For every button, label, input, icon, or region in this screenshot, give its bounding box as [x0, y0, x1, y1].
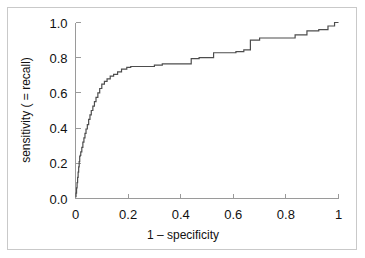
- y-tick-label: 0.4: [49, 121, 67, 136]
- x-axis-title: 1 – specificity: [147, 228, 219, 242]
- axis-lines: [76, 23, 339, 199]
- y-tick-label: 0.0: [49, 192, 67, 207]
- x-tick-label: 0.2: [119, 207, 137, 222]
- roc-curve-figure: 00.20.40.60.81 0.00.20.40.60.81.0 1 – sp…: [0, 0, 365, 258]
- roc-curve-line: [76, 23, 339, 197]
- roc-chart-svg: 00.20.40.60.81 0.00.20.40.60.81.0 1 – sp…: [0, 0, 365, 258]
- y-tick-label: 1.0: [49, 16, 67, 31]
- x-tick-label: 0.4: [172, 207, 190, 222]
- x-tick-label: 1: [335, 207, 342, 222]
- tick-marks: [76, 23, 339, 199]
- y-axis-tick-labels: 0.00.20.40.60.81.0: [49, 16, 67, 207]
- y-axis-title: sensitivity ( = recall): [19, 57, 33, 163]
- y-tick-label: 0.6: [49, 86, 67, 101]
- y-tick-label: 0.2: [49, 156, 67, 171]
- x-tick-label: 0.6: [224, 207, 242, 222]
- x-tick-label: 0.8: [277, 207, 295, 222]
- x-axis-tick-labels: 00.20.40.60.81: [72, 207, 342, 222]
- plot-area: 00.20.40.60.81 0.00.20.40.60.81.0 1 – sp…: [0, 0, 365, 258]
- y-tick-label: 0.8: [49, 51, 67, 66]
- x-tick-label: 0: [72, 207, 79, 222]
